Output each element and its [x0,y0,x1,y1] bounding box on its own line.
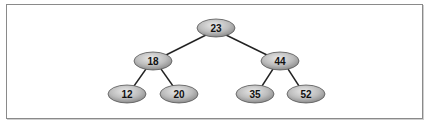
node-label: 44 [274,56,286,67]
tree-node-23: 23 [197,19,235,37]
tree-node-35: 35 [236,85,274,103]
tree-node-18: 18 [134,52,172,70]
node-label: 23 [210,23,222,34]
node-label: 35 [249,89,261,100]
node-label: 12 [121,89,133,100]
node-label: 18 [147,56,159,67]
tree-node-12: 12 [108,85,146,103]
node-label: 52 [300,89,312,100]
edge-18-12 [134,69,146,86]
node-label: 20 [173,89,185,100]
edge-23-44 [226,35,267,55]
edge-18-20 [161,69,173,86]
edge-23-18 [166,35,206,55]
edge-44-35 [262,69,273,86]
edge-44-52 [288,69,299,86]
tree-node-44: 44 [261,52,299,70]
tree-node-20: 20 [160,85,198,103]
tree-diagram: 23 18 44 12 20 35 52 [0,0,429,123]
tree-node-52: 52 [287,85,325,103]
